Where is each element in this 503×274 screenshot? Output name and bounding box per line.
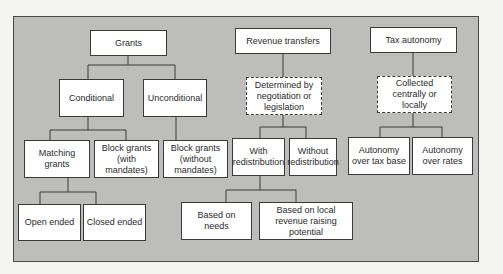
node-without-redistribution: Without redistribution: [289, 138, 337, 176]
node-based-on-needs: Based on needs: [181, 202, 252, 240]
node-collected-centrally-or-locally: Collected centrally or locally: [377, 76, 452, 113]
node-block-grants-without-mandates: Block grants (without mandates): [163, 140, 228, 178]
node-autonomy-over-rates: Autonomy over rates: [412, 137, 473, 175]
node-closed-ended: Closed ended: [83, 204, 146, 241]
node-unconditional: Unconditional: [143, 79, 207, 117]
node-with-redistribution: With redistribution: [232, 138, 285, 176]
node-conditional: Conditional: [59, 79, 124, 117]
node-autonomy-over-tax-base: Autonomy over tax base: [348, 137, 410, 175]
node-based-on-local-revenue: Based on local revenue raising potential: [259, 202, 353, 240]
node-revenue-transfers: Revenue transfers: [235, 28, 331, 54]
node-block-grants-with-mandates: Block grants (with mandates): [94, 140, 159, 178]
node-grants: Grants: [90, 30, 167, 56]
node-tax-autonomy: Tax autonomy: [370, 27, 457, 53]
node-open-ended: Open ended: [18, 204, 81, 241]
node-determined-by-negotiation: Determined by negotiation or legislation: [246, 77, 322, 115]
node-matching-grants: Matching grants: [24, 140, 90, 178]
